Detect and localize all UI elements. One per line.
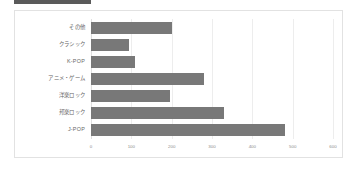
gridline-600 bbox=[333, 19, 334, 139]
x-axis-tick-600: 600 bbox=[329, 142, 336, 152]
bar-その他[interactable] bbox=[91, 22, 172, 34]
x-axis-tick-400: 400 bbox=[249, 142, 256, 152]
bar-クラシック[interactable] bbox=[91, 39, 129, 51]
y-axis-label-邦楽ロック: 邦楽ロック bbox=[59, 110, 85, 115]
bar-row[interactable] bbox=[91, 90, 333, 102]
x-axis-tick-200: 200 bbox=[168, 142, 175, 152]
y-axis-category-labels: その他クラシックK-POPアニメ・ゲーム洋楽ロック邦楽ロックJ-POP bbox=[15, 19, 89, 139]
x-axis-tick-100: 100 bbox=[128, 142, 135, 152]
x-axis-tick-0: 0 bbox=[90, 142, 92, 152]
y-axis-label-クラシック: クラシック bbox=[59, 42, 85, 47]
bar-row[interactable] bbox=[91, 22, 333, 34]
bar-series bbox=[91, 19, 333, 139]
bar-row[interactable] bbox=[91, 124, 333, 136]
bar-J-POP[interactable] bbox=[91, 124, 285, 136]
bar-アニメ・ゲーム[interactable] bbox=[91, 73, 204, 85]
plot-area bbox=[91, 19, 333, 139]
x-axis-tick-labels: 0100200300400500600 bbox=[91, 142, 333, 152]
y-axis-label-K-POP: K-POP bbox=[67, 59, 85, 64]
bar-row[interactable] bbox=[91, 56, 333, 68]
y-axis-label-アニメ・ゲーム: アニメ・ゲーム bbox=[48, 76, 85, 81]
bar-邦楽ロック[interactable] bbox=[91, 107, 224, 119]
bar-row[interactable] bbox=[91, 39, 333, 51]
title-block: title-bar bbox=[14, 0, 91, 4]
y-axis-label-J-POP: J-POP bbox=[68, 127, 85, 132]
bar-洋楽ロック[interactable] bbox=[91, 90, 170, 102]
y-axis-label-洋楽ロック: 洋楽ロック bbox=[59, 93, 85, 98]
x-axis-tick-300: 300 bbox=[208, 142, 215, 152]
bar-row[interactable] bbox=[91, 73, 333, 85]
title-block-label: title-bar bbox=[14, 0, 91, 4]
bar-row[interactable] bbox=[91, 107, 333, 119]
bar-K-POP[interactable] bbox=[91, 56, 135, 68]
chart-frame: その他クラシックK-POPアニメ・ゲーム洋楽ロック邦楽ロックJ-POP 0100… bbox=[14, 10, 343, 158]
y-axis-label-その他: その他 bbox=[69, 25, 85, 30]
x-axis-tick-500: 500 bbox=[289, 142, 296, 152]
